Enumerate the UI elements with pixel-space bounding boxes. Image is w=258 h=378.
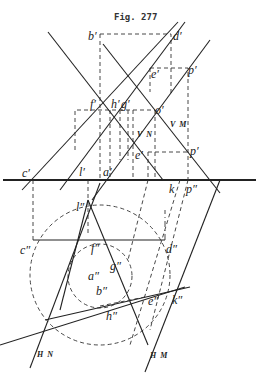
label-hm: H M bbox=[149, 351, 168, 360]
label-d-dprime: d″ bbox=[166, 242, 178, 256]
label-k: k bbox=[169, 182, 175, 196]
label-d-prime: d′ bbox=[173, 29, 182, 43]
label-p-prime: p′ bbox=[189, 144, 199, 158]
label-c-dprime: c″ bbox=[20, 243, 31, 257]
dashed-e-projection bbox=[128, 180, 148, 260]
line-hm-trace bbox=[145, 180, 220, 372]
label-e-prime-top: e′ bbox=[151, 67, 159, 81]
geometry-figure: Fig. 277 b′ d′ e′ p′ f′ h′ g′ o′ V N V M bbox=[0, 0, 258, 378]
label-o-prime: o′ bbox=[155, 103, 164, 117]
label-k-dprime: k″ bbox=[172, 293, 183, 307]
label-vn: V N bbox=[137, 130, 153, 139]
small-circle bbox=[68, 244, 132, 308]
figure-title: Fig. 277 bbox=[114, 12, 157, 22]
label-p-prime-top: p′ bbox=[187, 63, 197, 77]
label-p-dprime: p″ bbox=[185, 182, 198, 196]
line-descending-1 bbox=[48, 32, 163, 180]
label-e-prime: e′ bbox=[135, 148, 143, 162]
label-vm: V M bbox=[170, 120, 187, 129]
line-l-down bbox=[60, 200, 88, 310]
label-l-dprime: l″ bbox=[76, 200, 85, 214]
label-b-dprime: b″ bbox=[96, 284, 108, 298]
label-g-prime: g′ bbox=[121, 97, 130, 111]
line-descending-2 bbox=[103, 44, 220, 193]
label-h-dprime: h″ bbox=[106, 309, 118, 323]
label-f-prime: f′ bbox=[90, 97, 96, 111]
label-g-dprime: g″ bbox=[110, 259, 122, 273]
large-circle bbox=[30, 205, 170, 345]
label-a-dprime: a″ bbox=[88, 269, 100, 283]
label-c-prime: c′ bbox=[22, 166, 30, 180]
label-b-prime: b′ bbox=[88, 29, 97, 43]
label-e-dprime: e″ bbox=[148, 294, 159, 308]
label-f-dprime: f″ bbox=[91, 241, 100, 255]
label-a-prime: a′ bbox=[103, 165, 112, 179]
label-h-prime: h′ bbox=[111, 97, 120, 111]
label-hn: H N bbox=[36, 350, 54, 359]
label-l-prime: l′ bbox=[79, 165, 85, 179]
